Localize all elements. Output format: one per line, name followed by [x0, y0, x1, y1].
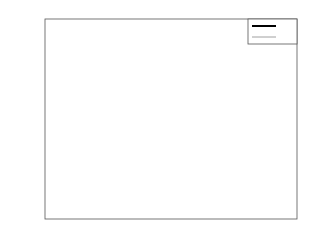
legend-box [248, 19, 297, 44]
legend [248, 19, 297, 44]
line-chart [0, 0, 315, 250]
plot-area [45, 19, 297, 219]
